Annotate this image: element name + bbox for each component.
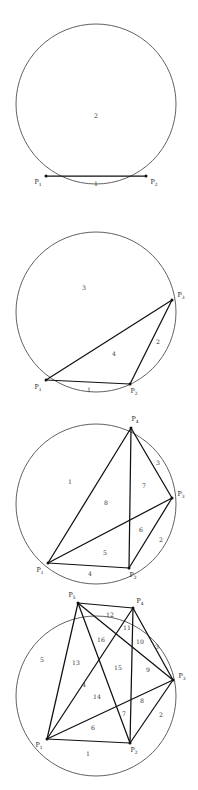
region-number-15: 15 bbox=[114, 664, 122, 671]
panel-2-svg: P1P2P31234 bbox=[0, 208, 198, 406]
chord-2 bbox=[129, 498, 172, 568]
point-subscript: 3 bbox=[182, 494, 185, 499]
region-number-11: 11 bbox=[123, 624, 131, 631]
panel-4-svg: P1P2P3P4P512356789101112131415164 bbox=[0, 592, 198, 790]
region-number-2: 2 bbox=[94, 112, 98, 119]
point-label-p1: P1 bbox=[34, 383, 41, 392]
chord-5 bbox=[48, 498, 172, 563]
point-subscript: 5 bbox=[73, 595, 76, 600]
point-label-p2: P2 bbox=[129, 571, 136, 580]
region-number-12: 12 bbox=[106, 611, 114, 618]
chord-1 bbox=[46, 380, 130, 384]
point-label-p4: P4 bbox=[131, 415, 138, 424]
region-number-8: 8 bbox=[104, 499, 108, 506]
point-dot-2 bbox=[128, 567, 131, 570]
point-dot-2 bbox=[129, 383, 132, 386]
region-number-8: 8 bbox=[140, 697, 144, 704]
region-number-7: 7 bbox=[122, 710, 126, 717]
point-dot-1 bbox=[46, 738, 49, 741]
point-subscript: 1 bbox=[39, 182, 42, 187]
point-label-p4: P4 bbox=[136, 597, 143, 606]
region-number-1: 1 bbox=[86, 750, 90, 757]
point-dot-1 bbox=[45, 175, 48, 178]
point-subscript: 3 bbox=[182, 295, 185, 300]
panel-3-svg: P1P2P3P412356784 bbox=[0, 400, 198, 598]
region-number-4: 4 bbox=[88, 570, 92, 577]
region-number-2: 2 bbox=[159, 536, 163, 543]
region-number-6: 6 bbox=[139, 526, 143, 533]
region-number-14: 14 bbox=[93, 693, 101, 700]
point-label-p1: P1 bbox=[36, 566, 43, 575]
region-number-9: 9 bbox=[146, 666, 150, 673]
point-dot-2 bbox=[145, 175, 148, 178]
point-subscript: 4 bbox=[141, 601, 144, 606]
region-number-3: 3 bbox=[82, 284, 86, 291]
point-subscript: 1 bbox=[40, 745, 43, 750]
region-number-13: 13 bbox=[72, 659, 80, 666]
point-label-p3: P3 bbox=[177, 490, 184, 499]
point-dot-3 bbox=[171, 299, 174, 302]
point-dot-4 bbox=[132, 607, 135, 610]
point-label-p3: P3 bbox=[178, 672, 185, 681]
chord-3 bbox=[131, 428, 172, 498]
region-number-1: 1 bbox=[94, 180, 98, 187]
point-label-p1: P1 bbox=[34, 178, 41, 187]
point-dot-3 bbox=[172, 679, 175, 682]
panel-5-points: P1P2P3P4P512356789101112131415164 bbox=[0, 592, 198, 790]
point-subscript: 2 bbox=[155, 182, 158, 187]
point-subscript: 1 bbox=[41, 570, 44, 575]
region-number-6: 6 bbox=[91, 724, 95, 731]
chord-4 bbox=[48, 428, 131, 563]
point-subscript: 2 bbox=[135, 750, 138, 755]
region-number-2: 2 bbox=[156, 338, 160, 345]
region-number-2: 2 bbox=[159, 711, 163, 718]
region-number-5: 5 bbox=[103, 549, 107, 556]
chord-1 bbox=[47, 739, 130, 743]
circle-outline bbox=[16, 24, 176, 184]
region-number-7: 7 bbox=[142, 482, 146, 489]
point-dot-1 bbox=[47, 562, 50, 565]
point-subscript: 2 bbox=[134, 575, 137, 580]
point-label-p1: P1 bbox=[35, 741, 42, 750]
region-number-3: 3 bbox=[156, 459, 160, 466]
panel-4-points: P1P2P3P412356784 bbox=[0, 400, 198, 598]
region-number-1: 1 bbox=[68, 478, 72, 485]
chord-6 bbox=[129, 428, 131, 568]
region-number-4: 4 bbox=[82, 681, 86, 688]
panel-1-svg: P1P212 bbox=[0, 0, 198, 198]
point-label-p5: P5 bbox=[68, 592, 75, 600]
region-number-5: 5 bbox=[40, 656, 44, 663]
point-dot-1 bbox=[45, 379, 48, 382]
chord-1 bbox=[48, 563, 129, 568]
region-number-4: 4 bbox=[112, 350, 116, 357]
panel-2-points: P1P212 bbox=[0, 0, 198, 198]
point-dot-4 bbox=[130, 427, 133, 430]
region-number-1: 1 bbox=[87, 386, 91, 393]
point-dot-3 bbox=[171, 497, 174, 500]
panel-3-points: P1P2P31234 bbox=[0, 208, 198, 406]
point-label-p2: P2 bbox=[130, 387, 137, 396]
chord-4 bbox=[78, 603, 133, 608]
point-subscript: 2 bbox=[135, 391, 138, 396]
point-dot-5 bbox=[77, 602, 80, 605]
point-label-p3: P3 bbox=[177, 291, 184, 300]
region-number-3: 3 bbox=[155, 643, 159, 650]
point-dot-2 bbox=[129, 742, 132, 745]
circle-outline bbox=[16, 424, 176, 584]
region-number-10: 10 bbox=[136, 638, 144, 645]
point-label-p2: P2 bbox=[130, 746, 137, 755]
point-subscript: 4 bbox=[136, 419, 139, 424]
region-number-16: 16 bbox=[97, 636, 105, 643]
point-subscript: 3 bbox=[183, 676, 186, 681]
point-label-p2: P2 bbox=[150, 178, 157, 187]
point-subscript: 1 bbox=[39, 387, 42, 392]
